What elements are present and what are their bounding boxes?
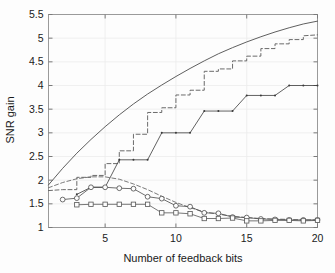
circle-marker <box>145 194 150 199</box>
y-tick-label: 3.5 <box>29 103 44 115</box>
square-marker <box>145 202 149 206</box>
square-marker <box>259 219 263 223</box>
square-marker <box>216 216 220 220</box>
dot-marker <box>147 159 149 161</box>
x-tick-label: 20 <box>312 232 324 244</box>
x-tick-label: 15 <box>241 232 253 244</box>
dot-marker <box>246 94 248 96</box>
circle-marker <box>131 186 136 191</box>
chart-figure: 11.522.533.544.555.55101520 Number of fe… <box>0 0 335 273</box>
circle-marker <box>188 204 193 209</box>
square-marker <box>245 219 249 223</box>
circle-marker <box>103 185 108 190</box>
dot-marker <box>203 110 205 112</box>
square-marker <box>75 203 79 207</box>
circle-marker <box>174 203 179 208</box>
y-tick-label: 1.5 <box>29 197 44 209</box>
square-marker <box>103 202 107 206</box>
circle-marker <box>117 186 122 191</box>
square-marker <box>273 218 277 222</box>
dot-marker <box>317 85 319 87</box>
circle-marker <box>60 197 65 202</box>
square-marker <box>131 202 135 206</box>
square-marker <box>202 216 206 220</box>
y-tick-label: 2 <box>38 174 44 186</box>
dot-marker <box>288 85 290 87</box>
dot-marker <box>232 110 234 112</box>
y-tick-label: 5.5 <box>29 8 44 20</box>
square-marker <box>174 211 178 215</box>
dot-marker <box>175 132 177 134</box>
circle-marker <box>74 196 79 201</box>
dot-marker <box>217 110 219 112</box>
circle-marker <box>216 211 221 216</box>
circle-marker <box>159 196 164 201</box>
square-marker <box>188 212 192 216</box>
square-marker <box>230 216 234 220</box>
square-marker <box>287 218 291 222</box>
dot-marker <box>132 159 134 161</box>
dot-marker <box>260 94 262 96</box>
dot-marker <box>274 94 276 96</box>
x-tick-label: 5 <box>102 232 108 244</box>
y-tick-label: 2.5 <box>29 150 44 162</box>
dot-marker <box>76 193 78 195</box>
dot-marker <box>189 132 191 134</box>
dot-marker <box>118 159 120 161</box>
square-marker <box>89 202 93 206</box>
y-axis-label: SNR gain <box>4 96 16 143</box>
y-tick-label: 4.5 <box>29 55 44 67</box>
figure-background <box>0 0 335 273</box>
dot-marker <box>161 132 163 134</box>
circle-marker <box>202 210 207 215</box>
square-marker <box>117 202 121 206</box>
y-tick-label: 1 <box>38 221 44 233</box>
circle-marker <box>89 185 94 190</box>
dot-marker <box>302 85 304 87</box>
snr-gain-line-chart: 11.522.533.544.555.55101520 Number of fe… <box>0 0 335 273</box>
square-marker <box>160 211 164 215</box>
y-tick-label: 3 <box>38 126 44 138</box>
square-marker <box>315 218 319 222</box>
y-tick-label: 4 <box>38 79 44 91</box>
x-axis-label: Number of feedback bits <box>123 252 243 264</box>
x-tick-label: 10 <box>170 232 182 244</box>
y-tick-label: 5 <box>38 32 44 44</box>
square-marker <box>301 219 305 223</box>
